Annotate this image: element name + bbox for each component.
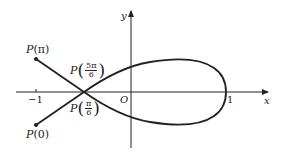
label-p-pi: P(π)	[26, 44, 49, 55]
paren-open: (	[77, 100, 84, 117]
tick-label-neg1: −1	[28, 95, 43, 105]
paren-close: )	[98, 62, 105, 79]
denominator: 6	[86, 109, 91, 117]
fraction-pi-6: π 6	[85, 100, 92, 117]
label-p-5pi-6-prefix: P	[70, 65, 77, 76]
tick-label-1: 1	[227, 95, 233, 105]
paren-open: (	[77, 62, 84, 79]
label-p-pi-6-prefix: P	[70, 103, 77, 114]
y-axis-label: y	[121, 11, 127, 21]
paren-close: )	[93, 100, 100, 117]
fraction-5pi-6: 5π 6	[85, 62, 97, 79]
origin-label: O	[120, 95, 128, 105]
denominator: 6	[89, 71, 94, 79]
point-p-zero	[34, 123, 38, 127]
label-p-zero: P(0)	[26, 129, 49, 140]
label-p-pi-arg: (π)	[33, 43, 49, 56]
label-p-5pi-6: P ( 5π 6 )	[70, 62, 105, 79]
point-p-pi	[34, 57, 38, 61]
label-p-pi-6: P ( π 6 )	[70, 100, 100, 117]
label-p-zero-arg: (0)	[33, 128, 49, 141]
x-axis-label: x	[264, 96, 270, 106]
